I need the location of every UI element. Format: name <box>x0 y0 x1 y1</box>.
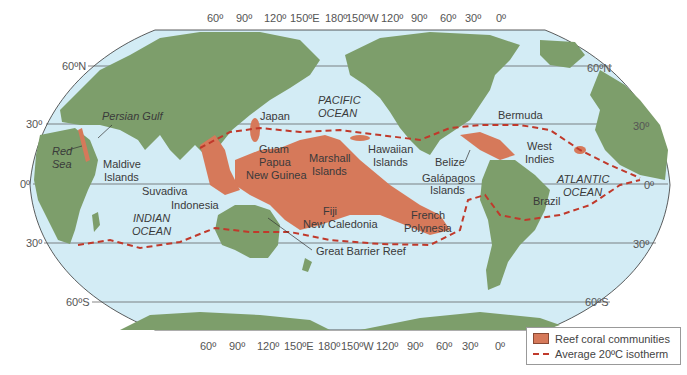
label-bermuda: Bermuda <box>498 109 544 121</box>
label-marshall-1: Marshall <box>309 152 351 164</box>
lon-bottom-0: 60º <box>200 340 216 352</box>
label-persian-gulf: Persian Gulf <box>102 110 163 122</box>
reef-swatch-icon <box>533 333 549 344</box>
label-galapagos-2: Islands <box>430 184 465 196</box>
reef-hawaii <box>350 135 370 141</box>
label-suvadiva: Suvadiva <box>142 185 188 197</box>
label-red-sea-2: Sea <box>52 158 72 170</box>
legend-label-reef: Reef coral communities <box>555 333 670 345</box>
label-great-barrier-reef: Great Barrier Reef <box>316 245 407 257</box>
legend-item-isotherm: Average 20ºC isotherm <box>533 346 674 361</box>
lat-right-30n: 30º <box>633 120 649 132</box>
lon-bottom-6: 120º <box>376 340 398 352</box>
legend-label-isotherm: Average 20ºC isotherm <box>555 348 668 360</box>
label-atlantic-ocean-1: ATLANTIC <box>556 173 609 185</box>
label-red-sea-1: Red <box>52 145 73 157</box>
lat-left-60n: 60ºN <box>62 60 86 72</box>
label-maldive-1: Maldive <box>103 158 141 170</box>
lon-bottom-3: 150ºE <box>284 340 314 352</box>
label-pacific-ocean-1: PACIFIC <box>318 94 361 106</box>
lon-top-0: 60º <box>207 12 223 24</box>
label-guam: Guam <box>259 143 289 155</box>
lon-top-8: 60º <box>440 12 456 24</box>
lat-left-0: 0º <box>20 178 30 190</box>
lon-bottom-9: 30º <box>462 340 478 352</box>
lon-bottom-7: 90º <box>407 340 423 352</box>
lat-left-60s: 60ºS <box>66 296 90 308</box>
legend-item-reef: Reef coral communities <box>533 331 674 346</box>
label-new-caledonia: New Caledonia <box>303 218 378 230</box>
lon-top-4: 180º <box>325 12 347 24</box>
label-papua-2: New Guinea <box>246 169 307 181</box>
label-west-indies-1: West <box>527 140 552 152</box>
label-fiji: Fiji <box>323 205 337 217</box>
legend: Reef coral communities Average 20ºC isot… <box>526 327 681 365</box>
label-french-polynesia-2: Polynesia <box>404 222 453 234</box>
lat-left-30s: 30º <box>26 237 42 249</box>
label-french-polynesia-1: French <box>411 209 445 221</box>
label-west-indies-2: Indies <box>525 153 555 165</box>
label-galapagos-1: Galápagos <box>422 172 476 184</box>
lon-top-5: 150ºW <box>346 12 379 24</box>
lon-top-1: 90º <box>236 12 252 24</box>
lat-right-60s: 60ºS <box>585 296 609 308</box>
lon-bottom-4: 180º <box>318 340 340 352</box>
lon-bottom-10: 0º <box>495 340 505 352</box>
label-japan: Japan <box>260 110 290 122</box>
label-hawaiian-2: Islands <box>373 156 408 168</box>
label-belize: Belize <box>435 156 465 168</box>
lon-bottom-8: 60º <box>436 340 452 352</box>
lat-right-30s: 30º <box>633 238 649 250</box>
world-map: 60º 90º 120º 150ºE 180º 150ºW 120º 90º 6… <box>0 0 687 375</box>
lon-top-2: 120º <box>264 12 286 24</box>
label-indian-ocean-2: OCEAN <box>132 225 171 237</box>
dashed-line-icon <box>533 353 549 355</box>
lon-bottom-1: 90º <box>229 340 245 352</box>
lon-top-3: 150ºE <box>290 12 320 24</box>
label-maldive-2: Islands <box>104 171 139 183</box>
lon-top-7: 90º <box>411 12 427 24</box>
lon-top-10: 0º <box>496 12 506 24</box>
lon-top-6: 120º <box>381 12 403 24</box>
label-papua-1: Papua <box>259 156 292 168</box>
lon-bottom-5: 150ºW <box>341 340 374 352</box>
label-pacific-ocean-2: OCEAN <box>318 107 357 119</box>
lat-right-60n: 60ºN <box>587 62 611 74</box>
label-indian-ocean-1: INDIAN <box>133 212 170 224</box>
label-brazil: Brazil <box>533 195 561 207</box>
lat-right-0: 0º <box>644 179 654 191</box>
label-marshall-2: Islands <box>312 165 347 177</box>
label-indonesia: Indonesia <box>171 199 220 211</box>
lon-bottom-2: 120º <box>257 340 279 352</box>
label-hawaiian-1: Hawaiian <box>368 143 413 155</box>
lon-top-9: 30º <box>465 12 481 24</box>
longitude-ticks-bottom: 60º 90º 120º 150ºE 180º 150ºW 120º 90º 6… <box>200 340 505 352</box>
longitude-ticks-top: 60º 90º 120º 150ºE 180º 150ºW 120º 90º 6… <box>207 12 506 24</box>
label-atlantic-ocean-2: OCEAN <box>563 186 602 198</box>
lat-left-30n: 30º <box>26 118 42 130</box>
